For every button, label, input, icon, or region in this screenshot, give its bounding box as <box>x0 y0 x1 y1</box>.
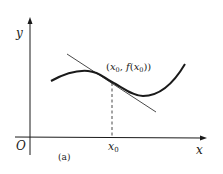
point-label: (x0, f(x0)) <box>106 61 151 74</box>
x-axis <box>15 137 202 138</box>
y-axis-label: y <box>15 26 23 40</box>
tangent-line-diagram: y O x x0 (a) (x0, f(x0)) <box>0 0 223 174</box>
point-label-close: )) <box>143 61 151 72</box>
x-axis-arrow-icon <box>200 136 207 141</box>
x0-sub: 0 <box>114 146 118 154</box>
x0-tick-label: x0 <box>108 140 119 154</box>
y-axis-arrow-icon <box>28 17 33 24</box>
x-axis-label: x <box>196 143 203 157</box>
caption: (a) <box>58 152 70 162</box>
origin-label: O <box>16 139 26 153</box>
